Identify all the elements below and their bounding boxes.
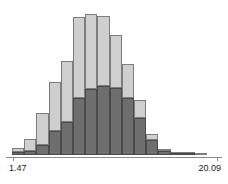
x-axis-label-min: 1.47 [9,163,27,173]
histogram-bar [146,134,158,155]
histogram-bar [134,100,146,156]
histogram-bar-dark-segment [171,153,183,155]
histogram-bar-light-segment [110,35,122,88]
histogram-bar [85,14,97,155]
histogram-bar-light-segment [73,17,85,98]
histogram-bar [73,17,85,155]
histogram-bar-dark-segment [85,89,97,155]
histogram-bar [183,152,195,155]
histogram-bar-dark-segment [122,98,134,155]
histogram-bar-light-segment [97,16,109,87]
histogram-bar-dark-segment [73,98,85,155]
histogram-bar-light-segment [134,100,146,118]
histogram-bar-light-segment [122,64,134,99]
histogram-bar-dark-segment [61,122,73,155]
x-axis-label-max: 20.09 [198,163,221,173]
histogram-bar [158,149,170,155]
histogram-bar [171,152,183,155]
histogram-bar [24,139,36,156]
histogram-bar-dark-segment [134,118,146,156]
histogram-bar-light-segment [36,113,48,145]
histogram-bar [49,82,61,156]
histogram-bar-dark-segment [49,131,61,155]
histogram-chart: 1.47 20.09 [0,0,228,184]
x-axis-tick-right [217,157,218,161]
histogram-bar-dark-segment [36,145,48,156]
histogram-bar-light-segment [61,61,73,123]
histogram-bar-light-segment [85,14,97,89]
histogram-bar-dark-segment [146,140,158,155]
histogram-bar-dark-segment [183,153,195,155]
histogram-bar [36,113,48,155]
x-axis-line [6,157,222,158]
histogram-bar-dark-segment [158,151,170,156]
x-axis-tick-left [13,157,14,161]
histogram-bar [61,61,73,156]
histogram-bar-light-segment [49,82,61,132]
histogram-bar-dark-segment [110,88,122,156]
histogram-bar-dark-segment [24,151,36,156]
histogram-bar-light-segment [24,139,36,151]
histogram-bar [12,148,24,156]
histogram-bar [110,35,122,155]
histogram-bar-dark-segment [12,152,24,155]
histogram-bar [122,64,134,156]
histogram-bar-light-segment [195,153,207,155]
histogram-bar [97,16,109,156]
histogram-bar-dark-segment [97,86,109,155]
histogram-bar [195,154,207,156]
